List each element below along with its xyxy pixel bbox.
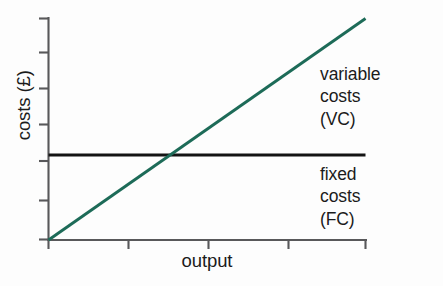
y-axis-label: costs (£) bbox=[15, 57, 34, 153]
annotation-fixed-costs-line-1: fixed bbox=[320, 163, 360, 185]
annotation-variable-costs-line-3: (VC) bbox=[320, 108, 380, 130]
cost-curves-chart: costs (£) output variable costs (VC) fix… bbox=[0, 0, 443, 286]
annotation-fixed-costs: fixed costs (FC) bbox=[320, 163, 360, 230]
series-line-variable-costs bbox=[49, 19, 366, 241]
annotation-fixed-costs-line-3: (FC) bbox=[320, 208, 360, 230]
annotation-variable-costs-line-2: costs bbox=[320, 85, 380, 107]
annotation-variable-costs: variable costs (VC) bbox=[320, 63, 380, 130]
annotation-fixed-costs-line-2: costs bbox=[320, 185, 360, 207]
chart-plot-area bbox=[0, 0, 443, 286]
x-axis-label: output bbox=[48, 252, 366, 271]
annotation-variable-costs-line-1: variable bbox=[320, 63, 380, 85]
